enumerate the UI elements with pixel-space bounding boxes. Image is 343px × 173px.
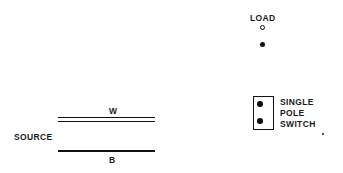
switch-label-line-3: SWITCH	[280, 119, 316, 129]
single-pole-switch-body	[253, 96, 274, 130]
white-neutral-wire	[58, 117, 155, 122]
black-hot-wire	[58, 150, 155, 152]
white-wire-label: W	[109, 106, 117, 116]
load-terminal-lower-icon	[260, 42, 265, 47]
load-label: LOAD	[250, 13, 275, 23]
switch-label-line-2: POLE	[280, 108, 305, 118]
switch-terminal-upper-icon	[257, 101, 263, 107]
switch-label-line-1: SINGLE	[280, 97, 314, 107]
load-terminal-upper-icon	[260, 25, 265, 30]
wiring-diagram: LOAD SOURCE W B SINGLE POLE SWITCH	[0, 0, 343, 173]
scan-artifact-speck	[322, 133, 324, 135]
source-label: SOURCE	[14, 132, 52, 142]
black-wire-label: B	[109, 155, 116, 165]
switch-terminal-lower-icon	[257, 118, 263, 124]
